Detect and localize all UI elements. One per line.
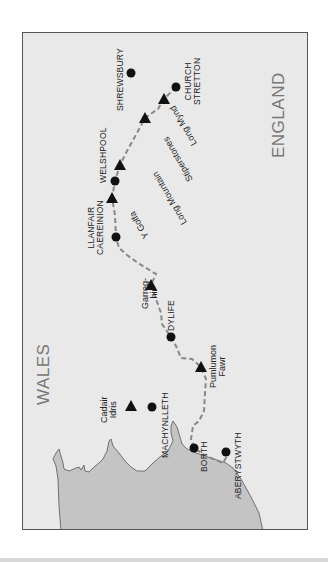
town-label-llanfair-caereinion: LLANFAIRCAEREINION [87, 200, 104, 255]
town-dot-machynlleth [148, 403, 157, 412]
town-dot-church-stretton [172, 83, 181, 92]
town-label-church-stretton: CHURCHSTRETTON [184, 58, 201, 105]
bottom-divider [0, 558, 328, 562]
town-dot-aberystwyth [222, 448, 231, 457]
sea-area [53, 421, 263, 530]
hill-label-cadair-idris: CadairIdris [100, 396, 118, 423]
town-dot-welshpool [111, 177, 120, 186]
hill-triangle-y-golfa [106, 192, 118, 203]
hill-triangle-long-mountain [114, 159, 126, 170]
hill-triangle-cadair-idris [125, 400, 137, 411]
town-label-borth: BORTH [200, 441, 209, 472]
country-label-england: ENGLAND [270, 72, 287, 158]
town-dot-dylife [167, 333, 176, 342]
town-label-dylife: DYLIFE [167, 300, 176, 331]
hill-triangle-stiperstones [139, 112, 151, 123]
town-dot-shrewsbury [127, 69, 136, 78]
hill-label-garreg-hir: Garreg-hir [141, 278, 159, 309]
town-dot-llanfair-caereinion [112, 233, 121, 242]
hill-label-pumlumon-fawr: PumlumonFawr [209, 345, 227, 388]
town-label-aberystwyth: ABERYSTWYTH [234, 432, 243, 499]
route-map: ENGLAND WALES SHREWSBURY CHURCHSTRETTON … [22, 32, 308, 530]
town-dot-borth [190, 444, 199, 453]
town-label-welshpool: WELSHPOOL [99, 127, 108, 183]
country-label-wales: WALES [35, 344, 52, 405]
town-label-shrewsbury: SHREWSBURY [116, 48, 125, 111]
town-label-machynlleth: MACHYNLLETH [161, 393, 170, 459]
